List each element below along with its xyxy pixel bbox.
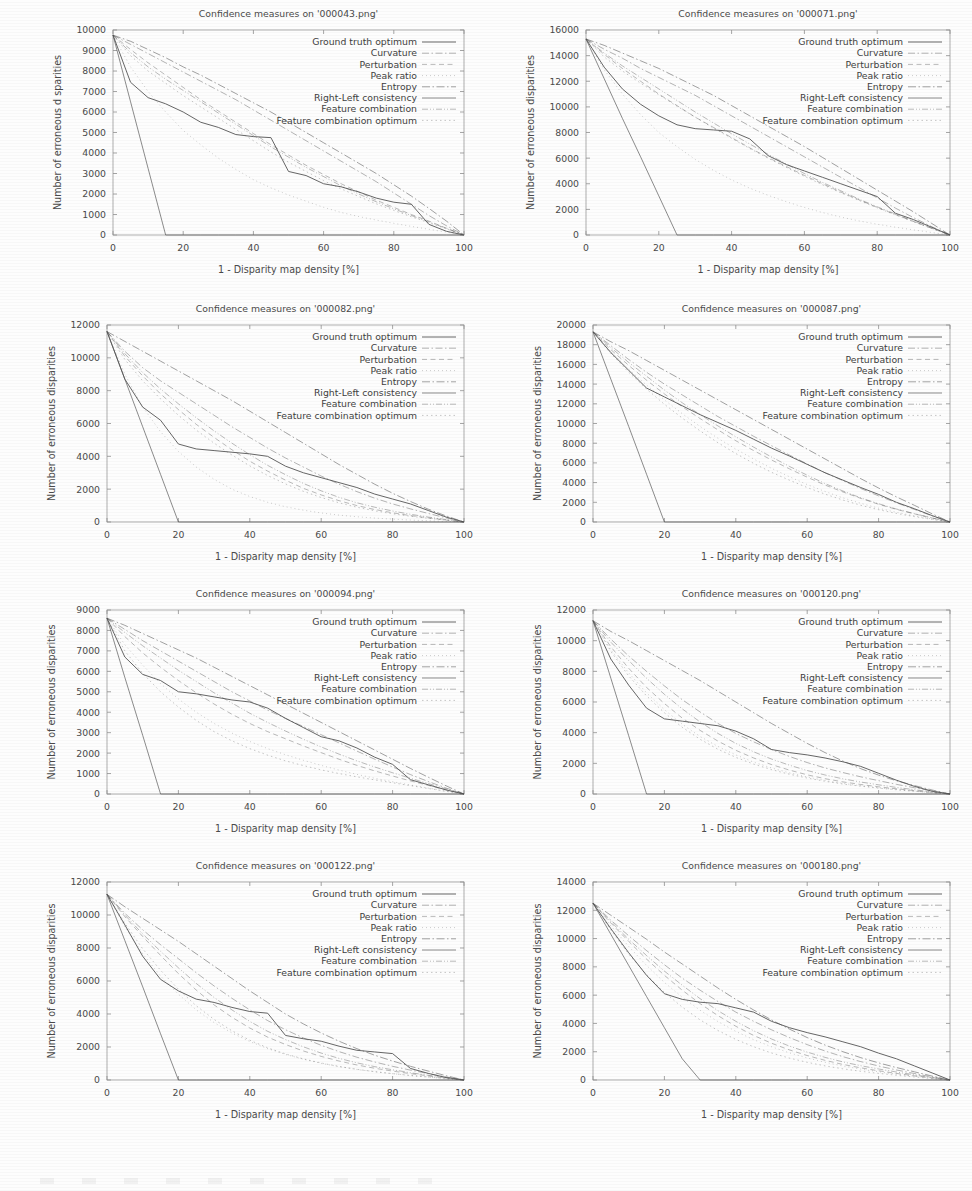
- y-tick-label: 10000: [556, 635, 586, 646]
- y-tick-label: 7000: [76, 645, 100, 656]
- x-tick-label: 60: [315, 1087, 327, 1098]
- x-tick-label: 100: [455, 801, 473, 812]
- x-tick-label: 20: [172, 801, 184, 812]
- legend-label-fcopt: Feature combination optimum: [276, 115, 417, 126]
- legend-label-fcomb: Feature combination: [321, 103, 417, 114]
- y-tick-label: 10000: [76, 24, 106, 35]
- x-axis-label: 1 - Disparity map density [%]: [215, 823, 356, 834]
- x-tick-label: 40: [730, 529, 742, 540]
- y-tick-label: 16000: [556, 359, 586, 370]
- legend-label-fcopt: Feature combination optimum: [762, 967, 903, 978]
- y-tick-label: 8000: [76, 625, 100, 636]
- y-tick-label: 0: [573, 229, 579, 240]
- y-tick-label: 2000: [562, 1046, 586, 1057]
- chart-panel-p000087: Confidence measures on '000087.png'02000…: [486, 297, 972, 582]
- legend-label-fcomb: Feature combination: [807, 683, 903, 694]
- legend-label-peak: Peak ratio: [371, 70, 418, 81]
- x-tick-label: 20: [658, 801, 670, 812]
- chart-panel-p000043: Confidence measures on '000043.png'01000…: [0, 0, 486, 297]
- x-tick-label: 40: [730, 1087, 742, 1098]
- x-tick-label: 0: [590, 1087, 596, 1098]
- x-tick-label: 20: [658, 1087, 670, 1098]
- legend-label-curv: Curvature: [857, 342, 904, 353]
- y-tick-label: 1000: [82, 209, 106, 220]
- legend-label-fcomb: Feature combination: [807, 398, 903, 409]
- y-tick-label: 12000: [70, 876, 100, 887]
- y-tick-label: 5000: [76, 686, 100, 697]
- x-tick-label: 0: [583, 242, 589, 253]
- chart-title: Confidence measures on '000071.png': [678, 8, 857, 19]
- legend-label-entr: Entropy: [381, 81, 418, 92]
- legend-label-pert: Perturbation: [359, 911, 417, 922]
- x-tick-label: 100: [941, 1087, 959, 1098]
- y-tick-label: 6000: [555, 153, 579, 164]
- y-tick-label: 8000: [555, 127, 579, 138]
- y-tick-label: 10000: [549, 101, 579, 112]
- chart-panel-p000094: Confidence measures on '000094.png'01000…: [0, 582, 486, 852]
- y-axis-label: Number of erroneous disparities: [532, 904, 543, 1059]
- legend-label-gt: Ground truth optimum: [798, 331, 903, 342]
- x-axis-label: 1 - Disparity map density [%]: [218, 264, 359, 275]
- y-tick-label: 12000: [556, 604, 586, 615]
- y-tick-label: 0: [100, 229, 106, 240]
- y-tick-label: 4000: [76, 1008, 100, 1019]
- y-tick-label: 2000: [562, 758, 586, 769]
- y-tick-label: 4000: [82, 147, 106, 158]
- legend-label-entr: Entropy: [867, 81, 904, 92]
- legend-label-peak: Peak ratio: [371, 922, 418, 933]
- legend-label-fcopt: Feature combination optimum: [276, 410, 417, 421]
- legend-label-pert: Perturbation: [359, 59, 417, 70]
- legend-label-gt: Ground truth optimum: [312, 331, 417, 342]
- y-tick-label: 8000: [76, 385, 100, 396]
- legend-label-curv: Curvature: [371, 342, 418, 353]
- legend-label-fcomb: Feature combination: [321, 398, 417, 409]
- y-tick-label: 1000: [76, 768, 100, 779]
- y-tick-label: 4000: [562, 727, 586, 738]
- legend-label-curv: Curvature: [371, 627, 418, 638]
- legend-label-peak: Peak ratio: [857, 70, 904, 81]
- x-tick-label: 20: [658, 529, 670, 540]
- y-tick-label: 2000: [76, 484, 100, 495]
- y-tick-label: 8000: [76, 942, 100, 953]
- figure-grid: Confidence measures on '000043.png'01000…: [0, 0, 972, 1191]
- x-tick-label: 80: [873, 1087, 885, 1098]
- x-tick-label: 40: [726, 242, 738, 253]
- y-axis-label: Number of erroneous disparities: [532, 346, 543, 501]
- legend-label-fcomb: Feature combination: [807, 955, 903, 966]
- legend-label-fcomb: Feature combination: [321, 683, 417, 694]
- x-tick-label: 20: [172, 529, 184, 540]
- y-tick-label: 6000: [76, 418, 100, 429]
- chart-title: Confidence measures on '000094.png': [196, 588, 375, 599]
- y-tick-label: 0: [580, 788, 586, 799]
- legend-label-peak: Peak ratio: [857, 365, 904, 376]
- y-tick-label: 10000: [70, 909, 100, 920]
- y-tick-label: 3000: [82, 168, 106, 179]
- chart-p000043: Confidence measures on '000043.png'01000…: [0, 0, 486, 297]
- x-tick-label: 40: [244, 801, 256, 812]
- chart-p000120: Confidence measures on '000120.png'02000…: [486, 582, 972, 852]
- legend-label-entr: Entropy: [381, 376, 418, 387]
- legend-label-rlc: Right-Left consistency: [800, 387, 904, 398]
- y-tick-label: 4000: [555, 178, 579, 189]
- legend-label-rlc: Right-Left consistency: [800, 92, 904, 103]
- chart-panel-p000122: Confidence measures on '000122.png'02000…: [0, 852, 486, 1142]
- y-axis-label: Number of erroneous disparities: [532, 625, 543, 780]
- chart-panel-p000071: Confidence measures on '000071.png'02000…: [486, 0, 972, 297]
- x-tick-label: 0: [590, 529, 596, 540]
- y-tick-label: 4000: [562, 477, 586, 488]
- y-tick-label: 0: [94, 788, 100, 799]
- y-axis-label: Number of erroneous disparities: [46, 346, 57, 501]
- chart-p000087: Confidence measures on '000087.png'02000…: [486, 297, 972, 582]
- chart-title: Confidence measures on '000120.png': [682, 588, 861, 599]
- y-tick-label: 14000: [556, 379, 586, 390]
- legend-label-fcopt: Feature combination optimum: [276, 695, 417, 706]
- legend-label-pert: Perturbation: [359, 354, 417, 365]
- legend-label-entr: Entropy: [867, 933, 904, 944]
- legend-label-curv: Curvature: [371, 47, 418, 58]
- legend-label-gt: Ground truth optimum: [312, 616, 417, 627]
- chart-p000094: Confidence measures on '000094.png'01000…: [0, 582, 486, 852]
- x-tick-label: 60: [315, 529, 327, 540]
- x-tick-label: 60: [801, 801, 813, 812]
- legend-label-rlc: Right-Left consistency: [314, 387, 418, 398]
- y-tick-label: 12000: [556, 398, 586, 409]
